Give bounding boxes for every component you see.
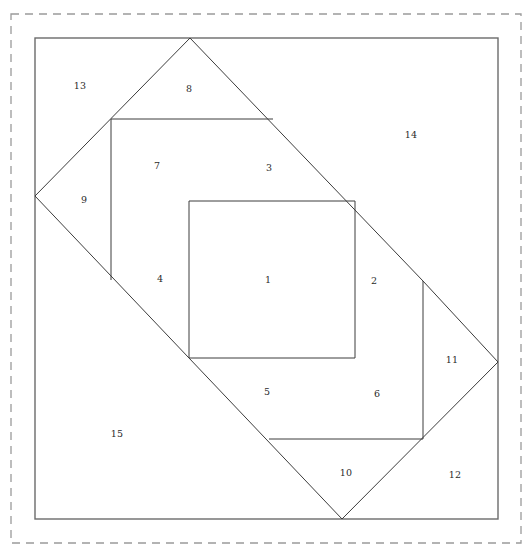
region-label-14: 14 (405, 129, 418, 140)
region-label-10: 10 (340, 467, 353, 478)
region-label-6: 6 (374, 388, 380, 399)
region-label-13: 13 (74, 80, 87, 91)
region-label-7: 7 (154, 160, 160, 171)
region-label-9: 9 (81, 194, 87, 205)
region-label-11: 11 (446, 354, 459, 365)
region-label-1: 1 (265, 274, 271, 285)
region-label-4: 4 (157, 273, 163, 284)
dissection-diagram: 123456789101112131415 (0, 0, 532, 557)
region-label-12: 12 (449, 469, 462, 480)
region-label-2: 2 (371, 275, 377, 286)
region-label-15: 15 (111, 428, 124, 439)
region-label-3: 3 (266, 162, 272, 173)
figure-root: 123456789101112131415 (0, 0, 532, 557)
region-label-8: 8 (186, 83, 192, 94)
region-label-5: 5 (264, 386, 270, 397)
region-upper-left-square (111, 119, 273, 280)
